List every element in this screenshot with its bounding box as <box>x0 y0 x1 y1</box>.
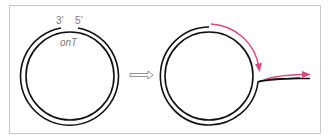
label-5prime: 5’ <box>75 15 83 26</box>
label-3prime: 3’ <box>56 15 64 26</box>
rolling-circle-diagram: 3’ 5’ onT <box>0 0 330 139</box>
origin-label: onT <box>60 37 78 48</box>
